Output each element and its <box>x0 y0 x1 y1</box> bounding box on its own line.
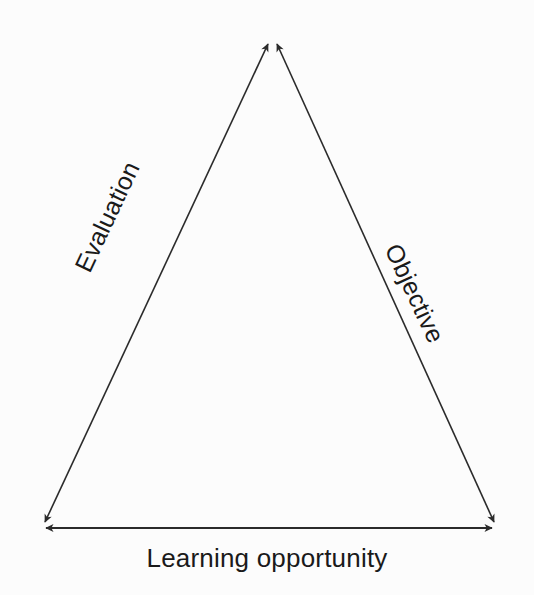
diagram-canvas: Evaluation Objective Learning opportunit… <box>0 0 534 595</box>
right-edge-arrow <box>277 44 494 522</box>
edge-label-learning-opportunity: Learning opportunity <box>0 545 534 571</box>
triangle-diagram-svg <box>0 0 534 595</box>
left-edge-arrow <box>45 44 268 522</box>
